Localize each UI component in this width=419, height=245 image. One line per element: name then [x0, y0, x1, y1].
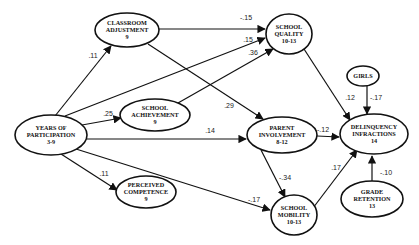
node-label-line: CLASSROOM [107, 19, 147, 26]
coefficient-label: .14 [205, 127, 215, 134]
node-label-line: YEARS OF [35, 124, 66, 131]
edge-parent-to-delinquency [317, 136, 339, 137]
node-label-line: 10-13 [282, 37, 296, 44]
coefficient-label: -.10 [380, 169, 392, 176]
node-achievement: SCHOOLACHIEVEMENT9 [120, 99, 190, 131]
coefficient-label: -.17 [370, 94, 382, 101]
coefficient-label: .15 [243, 36, 253, 43]
coefficient-label: .36 [248, 49, 258, 56]
node-label-line: 9 [153, 118, 156, 125]
node-label-line: PARENT [270, 124, 296, 131]
node-label-line: ACHIEVEMENT [131, 111, 179, 118]
coefficient-label: .17 [331, 164, 341, 171]
node-years: YEARS OFPARTICIPATION3-9 [15, 115, 87, 155]
node-label-line: PERCEIVED [128, 181, 165, 188]
node-girls: GIRLS [347, 66, 379, 86]
edge-years-to-mobility [76, 149, 270, 210]
node-label-line: PARTICIPATION [27, 131, 76, 138]
node-label-line: 8-12 [276, 138, 287, 145]
edges-layer [55, 29, 372, 210]
coefficient-label: -.12 [317, 126, 329, 133]
edge-quality-to-delinquency [304, 49, 350, 120]
coefficient-label: .12 [345, 94, 355, 101]
node-label-line: ADJUSTMENT [106, 26, 150, 33]
edge-years-to-achievement [82, 118, 121, 125]
node-label-line: COMPETENCE [124, 188, 168, 195]
node-label-line: GIRLS [353, 72, 373, 79]
node-label-line: GRADE [361, 188, 383, 195]
coefficient-label: .29 [224, 102, 234, 109]
node-quality: SCHOOLQUALITY10-13 [266, 14, 312, 54]
node-label-line: RETENTION [353, 195, 391, 202]
node-label-line: SCHOOL [281, 204, 307, 211]
node-label-line: SCHOOL [276, 23, 302, 30]
node-label-line: INVOLVEMENT [259, 131, 307, 138]
node-competence: PERCEIVEDCOMPETENCE9 [116, 176, 176, 208]
node-label-line: QUALITY [275, 30, 304, 37]
coefficient-label: .11 [88, 52, 97, 59]
edge-years-to-classroom [55, 46, 111, 116]
node-classroom: CLASSROOMADJUSTMENT9 [95, 13, 159, 47]
nodes-layer: CLASSROOMADJUSTMENT9SCHOOLQUALITY10-13SC… [15, 13, 408, 235]
node-mobility: SCHOOLMOBILITY10-13 [271, 195, 317, 235]
node-label-line: 13 [369, 202, 375, 209]
node-label-line: DELINQUENCY [351, 123, 398, 130]
coefficient-label: .11 [99, 170, 108, 177]
node-label-line: 3-9 [47, 138, 55, 145]
node-label-line: INFRACTIONS [352, 130, 396, 137]
node-label-line: MOBILITY [278, 211, 311, 218]
path-diagram: CLASSROOMADJUSTMENT9SCHOOLQUALITY10-13SC… [0, 0, 419, 245]
coefficient-label: -.34 [279, 174, 291, 181]
node-label-line: 9 [125, 33, 128, 40]
node-delinquency: DELINQUENCYINFRACTIONS14 [340, 114, 408, 154]
coefficient-label: .25 [103, 110, 113, 117]
node-label-line: 9 [144, 195, 147, 202]
node-parent: PARENTINVOLVEMENT8-12 [247, 117, 317, 153]
coefficient-label: -.15 [240, 14, 252, 21]
node-label-line: SCHOOL [142, 104, 168, 111]
node-label-line: 14 [371, 137, 377, 144]
node-label-line: 10-13 [287, 218, 301, 225]
node-retention: GRADERETENTION13 [341, 181, 403, 217]
coefficient-label: -.17 [248, 196, 260, 203]
